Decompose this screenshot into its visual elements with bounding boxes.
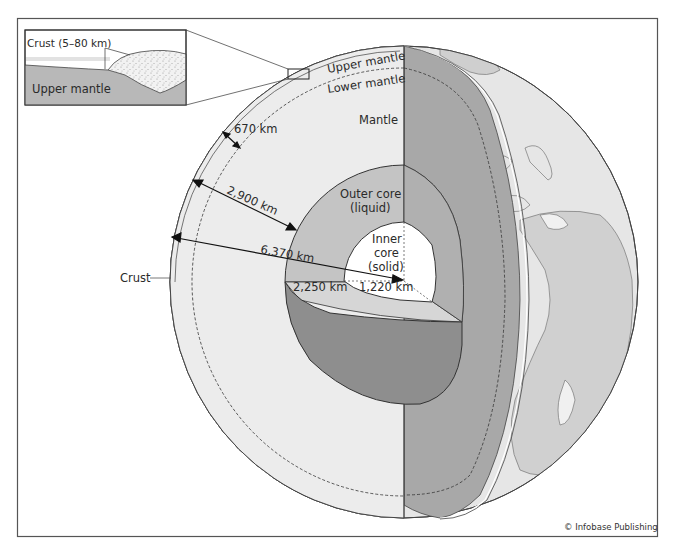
label-1220km: 1,220 km — [359, 280, 413, 294]
label-inner-core-1: Inner — [372, 232, 402, 246]
label-inner-core-2: core — [374, 246, 399, 260]
label-crust: Crust — [120, 271, 151, 285]
label-2250km: 2,250 km — [293, 280, 347, 294]
earth-structure-diagram: Crust (5–80 km) Upper mantle Upper mantl… — [0, 0, 677, 554]
label-outer-core-1: Outer core — [340, 187, 401, 201]
label-inner-core-3: (solid) — [368, 260, 404, 274]
inset-mantle-label: Upper mantle — [32, 82, 111, 96]
crust-inset: Crust (5–80 km) Upper mantle — [25, 30, 186, 105]
label-outer-core-2: (liquid) — [350, 201, 390, 215]
inset-crust-label: Crust (5–80 km) — [27, 37, 111, 49]
credit-text: © Infobase Publishing — [564, 522, 658, 532]
label-mantle: Mantle — [359, 113, 398, 127]
label-670km: 670 km — [234, 122, 277, 136]
